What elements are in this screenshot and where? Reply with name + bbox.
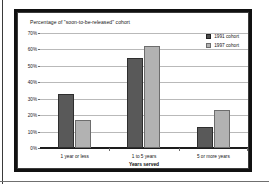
y-axis-tick-label: 40% [28, 80, 37, 85]
bar-series-b [214, 110, 230, 148]
y-axis-tick-label: 50% [28, 63, 37, 68]
x-axis-category-label: 1 to 5 years [132, 154, 157, 159]
bar-series-a [197, 127, 213, 148]
y-axis-tick-label: 70% [28, 31, 37, 36]
gridline: 0% [40, 148, 248, 149]
y-axis-tick-label: 20% [28, 113, 37, 118]
bar-group: 1 to 5 years [109, 33, 178, 148]
bar-series-b [144, 46, 160, 148]
y-axis-tick-label: 0% [30, 146, 37, 151]
figure-root: Percentage of "soon-to-be-released" coho… [0, 0, 269, 184]
x-axis-tick-mark [247, 148, 248, 151]
chart-title: Percentage of "soon-to-be-released" coho… [30, 19, 130, 25]
bar-series-a [127, 58, 143, 148]
bar-series-a [58, 94, 74, 148]
x-axis-title: Years served [129, 162, 159, 167]
bar-group: 5 or more years [179, 33, 248, 148]
chart-frame-inner: Percentage of "soon-to-be-released" coho… [17, 12, 249, 169]
plot-area: 0%10%20%30%40%50%60%70% 1 year or less1 … [40, 33, 248, 148]
y-axis-tick-label: 10% [28, 129, 37, 134]
x-axis-category-label: 5 or more years [197, 154, 230, 159]
chart-frame: Percentage of "soon-to-be-released" coho… [14, 9, 252, 172]
y-axis-tick-mark [38, 148, 40, 149]
scan-edge-left-rule [2, 0, 3, 184]
scan-edge-bottom-rule [0, 181, 269, 182]
x-axis-tick-mark [109, 148, 110, 151]
y-axis-tick-label: 60% [28, 47, 37, 52]
bar-series-b [75, 120, 91, 148]
y-axis-tick-label: 30% [28, 96, 37, 101]
bar-group: 1 year or less [40, 33, 109, 148]
bar-groups: 1 year or less1 to 5 years5 or more year… [40, 33, 248, 148]
x-axis-category-label: 1 year or less [61, 154, 89, 159]
x-axis-tick-mark [179, 148, 180, 151]
